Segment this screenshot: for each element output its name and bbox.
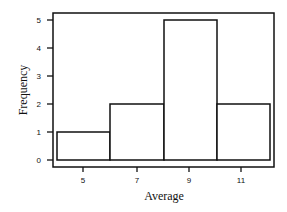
x-axis: 5 7 9 11 Average	[81, 167, 246, 203]
x-tick-label: 5	[81, 176, 86, 185]
bar-bin-10-12	[217, 104, 270, 160]
y-tick-label: 3	[37, 72, 42, 81]
y-axis: 0 1 2 3 4 5 Frequency	[16, 16, 53, 165]
bar-bin-8-10	[164, 20, 217, 160]
y-tick-label: 4	[37, 44, 42, 53]
y-tick-label: 0	[37, 156, 42, 165]
x-tick-label: 11	[237, 176, 246, 185]
y-tick-label: 1	[37, 128, 42, 137]
x-tick-label: 9	[187, 176, 192, 185]
y-tick-label: 2	[37, 100, 42, 109]
histogram-bars	[57, 20, 270, 160]
x-axis-title: Average	[144, 189, 184, 203]
bar-bin-4-6	[57, 132, 110, 160]
y-tick-label: 5	[37, 16, 42, 25]
y-axis-title: Frequency	[16, 65, 30, 116]
x-tick-label: 7	[135, 176, 140, 185]
bar-bin-6-8	[110, 104, 164, 160]
histogram-chart: 0 1 2 3 4 5 Frequency 5 7 9 11 Average	[0, 0, 287, 212]
